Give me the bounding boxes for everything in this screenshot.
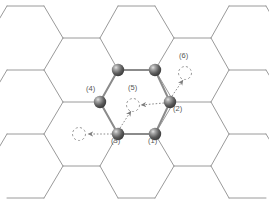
atom-5-node: [112, 64, 124, 76]
atom-label-1: (1): [148, 137, 157, 145]
atoms: [94, 64, 176, 140]
vacancy-marker-6: [179, 67, 192, 80]
atom-label-4: (4): [86, 85, 95, 93]
arrow-up-from-atom-3: [120, 111, 131, 128]
atom-label-3: (3): [111, 137, 120, 145]
atom-4: [94, 96, 106, 108]
atom-label-2: (2): [173, 105, 182, 113]
honeycomb-lattice-svg: [0, 0, 269, 204]
vacancy-marker-5: [127, 99, 140, 112]
marker-label-6: (6): [179, 52, 188, 60]
lattice-edges: [0, 6, 269, 198]
marker-label-5: (5): [128, 84, 137, 92]
figure-canvas: (1) (2) (3) (4) (5) (6): [0, 0, 269, 204]
vacancy-marker-left: [73, 128, 86, 141]
arrow-upright-from-atom-2: [172, 80, 183, 96]
highlighted-bonds: [100, 70, 170, 134]
arrow-left-from-atom-2: [141, 103, 164, 105]
atom-6-node: [149, 64, 161, 76]
